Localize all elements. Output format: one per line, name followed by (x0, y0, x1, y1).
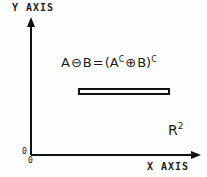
formula-right-operand: B (83, 55, 92, 70)
erosion-operator-icon: ⊖ (70, 55, 83, 70)
x-axis-arrowhead-icon (191, 151, 201, 159)
dilation-operator-icon: ⊕ (124, 55, 137, 70)
plane-label-base: R (168, 122, 178, 138)
y-axis-arrowhead-icon (27, 17, 35, 27)
formula-complement-operand: A (110, 55, 119, 70)
plane-label: R2 (168, 123, 183, 137)
x-axis-label: X AXIS (147, 161, 189, 172)
morphology-formula: A⊖B=(AC⊕B)C (61, 56, 157, 69)
eroded-set-rectangle (78, 88, 170, 95)
y-axis-label: Y AXIS (12, 2, 54, 13)
formula-second-operand: B (137, 55, 146, 70)
origin-label-y: 0 (22, 147, 27, 156)
formula-equals: = (92, 55, 105, 70)
plane-label-exponent: 2 (178, 121, 184, 131)
figure-canvas: Y AXIS X AXIS 0 0 A⊖B=(AC⊕B)C R2 (0, 0, 207, 177)
formula-complement-exponent-2: C (151, 55, 157, 64)
formula-left-operand: A (61, 55, 70, 70)
origin-label-x: 0 (28, 156, 33, 165)
